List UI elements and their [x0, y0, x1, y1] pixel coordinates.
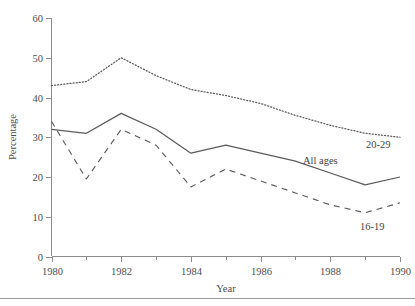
series-label-all-ages: All ages	[303, 155, 338, 166]
x-axis-title: Year	[216, 283, 236, 294]
x-tick-label: 1982	[111, 266, 132, 277]
y-tick-label: 0	[38, 252, 43, 263]
x-tick-label: 1986	[251, 266, 272, 277]
line-chart: 0102030405060 Percentage 198019821984198…	[0, 0, 415, 306]
footer-divider	[0, 298, 415, 299]
series-annotations: 20-29 All ages 16-19	[303, 139, 391, 232]
series-label-20-29: 20-29	[366, 139, 391, 150]
x-axis-minor-ticks	[87, 257, 366, 261]
x-axis-tick-labels: 198019821984198619881990	[42, 266, 411, 277]
y-axis-tick-labels: 0102030405060	[33, 13, 44, 263]
series-group	[52, 58, 401, 213]
y-axis-title: Percentage	[7, 114, 18, 160]
y-tick-label: 10	[33, 212, 44, 223]
series-line-20-29	[52, 58, 401, 138]
x-tick-label: 1990	[390, 266, 411, 277]
x-axis: 198019821984198619881990 Year	[42, 257, 411, 295]
y-tick-label: 40	[33, 93, 44, 104]
y-axis: 0102030405060 Percentage	[7, 13, 52, 263]
y-tick-label: 30	[33, 132, 44, 143]
y-tick-label: 50	[33, 53, 44, 64]
y-axis-ticks	[46, 19, 52, 258]
x-tick-label: 1984	[181, 266, 203, 277]
x-tick-label: 1988	[320, 266, 341, 277]
series-line-all-ages	[52, 113, 401, 185]
x-tick-label: 1980	[42, 266, 63, 277]
chart-figure: 0102030405060 Percentage 198019821984198…	[0, 0, 415, 306]
series-line-16-19	[52, 121, 401, 212]
y-tick-label: 20	[33, 172, 44, 183]
series-label-16-19: 16-19	[360, 221, 385, 232]
y-tick-label: 60	[33, 13, 44, 24]
